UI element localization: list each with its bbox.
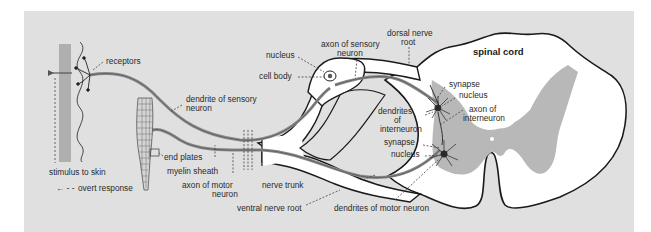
spinal-cord: spinal cord [385,33,626,208]
label-synapse-2: synapse [384,137,415,147]
overt-response-arrow-icon: ← - - [56,183,75,193]
muscle [137,98,159,190]
spinal-cord-label: spinal cord [473,46,524,57]
label-dendrites-of-motor-neuron: dendrites of motor neuron [334,203,429,213]
label-end-plates: end plates [164,152,202,162]
sensory-nucleus [328,74,332,78]
label-nerve-trunk: nerve trunk [262,180,304,190]
receptors-icon [75,57,90,92]
label-dendrites-of-interneuron-3: interneuron [380,124,422,134]
label-overt-response: overt response [78,183,133,193]
label-axon-of-interneuron-2: interneuron [463,113,505,123]
label-stimulus-to-skin: stimulus to skin [49,167,106,177]
label-axon-of-motor-neuron-2: neuron [212,189,238,199]
label-ventral-nerve-root: ventral nerve root [237,203,302,213]
label-myelin-sheath: myelin sheath [167,166,219,176]
label-nucleus-2: nucleus [391,149,420,159]
label-nucleus-sensory: nucleus [266,50,295,60]
label-dorsal-nerve-root-2: root [401,37,416,47]
skin-area [48,42,90,163]
skin-fibers [60,44,70,162]
label-nucleus-1: nucleus [459,90,488,100]
label-axon-of-sensory-neuron-2: neuron [337,48,363,58]
reflex-arc-diagram: spinal cord [0,0,651,232]
central-canal [490,137,494,141]
label-dendrite-of-sensory-neuron-2: neuron [186,103,212,113]
stimulus-arrowhead [48,70,54,76]
label-cell-body: cell body [259,71,293,81]
label-receptors: receptors [106,56,141,66]
label-synapse-1: synapse [449,79,480,89]
skin-wavy-line [77,42,83,162]
end-plates-icon [150,149,159,156]
